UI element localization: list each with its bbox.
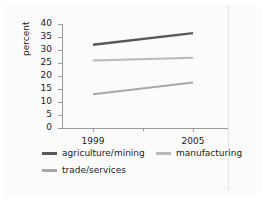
- series-line-agriculture-mining: [93, 33, 193, 45]
- legend-row-1: agriculture/mining manufacturing: [42, 148, 242, 165]
- y-tick-label-25: 25: [41, 57, 52, 68]
- y-tick-label-40: 40: [41, 18, 52, 29]
- y-tick-label-15: 15: [41, 83, 52, 94]
- series-line-manufacturing: [93, 58, 193, 61]
- y-tick-label-30: 30: [41, 44, 52, 55]
- y-tick-label-5: 5: [46, 109, 52, 120]
- series-line-trade-services: [93, 83, 193, 95]
- legend-row-2: trade/services: [42, 165, 242, 182]
- legend-swatch-manufacturing: [156, 152, 171, 155]
- legend-label-trade-services: trade/services: [62, 165, 126, 176]
- y-tick-label-35: 35: [41, 31, 52, 42]
- y-tick-label-0: 0: [46, 122, 52, 133]
- legend-item-manufacturing[interactable]: manufacturing: [156, 148, 242, 159]
- y-axis-title: percent: [21, 22, 31, 56]
- chart-legend: agriculture/mining manufacturing trade/s…: [42, 148, 242, 182]
- x-tick-label-1999: 1999: [82, 136, 105, 147]
- plot-area: 4035302520151050 19992005: [62, 24, 228, 128]
- legend-label-agriculture-mining: agriculture/mining: [62, 148, 145, 159]
- legend-swatch-trade-services: [42, 169, 57, 172]
- y-tick-label-20: 20: [41, 70, 52, 81]
- x-tick-label-2005: 2005: [182, 136, 205, 147]
- y-tick-label-10: 10: [41, 96, 52, 107]
- legend-item-trade-services[interactable]: trade/services: [42, 165, 126, 176]
- legend-swatch-agriculture-mining: [42, 152, 57, 156]
- legend-label-manufacturing: manufacturing: [176, 148, 242, 159]
- legend-item-agriculture-mining[interactable]: agriculture/mining: [42, 148, 145, 159]
- chart-figure: percent 4035302520151050 19992005 agricu…: [0, 0, 262, 201]
- series-lines: [62, 24, 228, 129]
